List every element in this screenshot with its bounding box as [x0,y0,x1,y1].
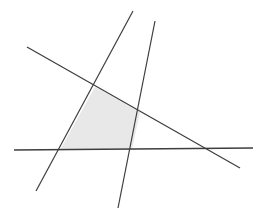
line-arrangement-svg [0,0,260,222]
shaded-quadrilateral-region [60,87,140,150]
figure-canvas [0,0,260,222]
horizontal-line [14,148,253,150]
region-layer [60,87,140,150]
